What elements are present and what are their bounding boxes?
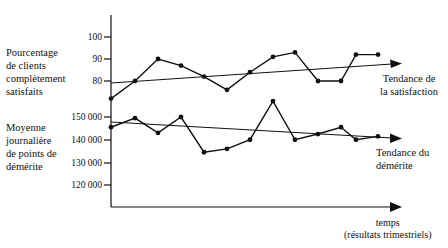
data-point-demerit [133,116,138,121]
data-point-satisfaction [248,70,253,75]
data-point-demerit [339,125,344,130]
data-point-satisfaction [109,96,114,101]
chart-canvas [0,0,448,248]
data-point-satisfaction [354,52,359,57]
trend-arrow-satisfaction-icon [390,60,402,69]
data-point-demerit [354,137,359,142]
data-point-demerit [109,125,114,130]
data-point-demerit [376,134,381,139]
data-point-demerit [316,132,321,137]
data-point-demerit [271,99,276,104]
data-point-satisfaction [225,87,230,92]
data-point-demerit [179,115,184,120]
series-line-satisfaction [111,52,378,98]
data-point-demerit [248,137,253,142]
series-line-demerit [111,101,378,152]
data-point-demerit [293,137,298,142]
data-point-satisfaction [202,74,207,79]
data-point-satisfaction [293,50,298,55]
data-point-satisfaction [133,79,138,84]
data-point-demerit [225,146,230,151]
data-point-satisfaction [316,79,321,84]
data-point-demerit [156,131,161,136]
data-point-demerit [202,150,207,155]
trend-arrow-demerit-icon [390,134,402,144]
data-point-satisfaction [271,54,276,59]
data-point-satisfaction [179,63,184,68]
data-series [109,50,381,155]
data-point-satisfaction [156,57,161,62]
x-axis-arrow-icon [390,202,402,212]
data-point-satisfaction [376,52,381,57]
data-point-satisfaction [339,79,344,84]
